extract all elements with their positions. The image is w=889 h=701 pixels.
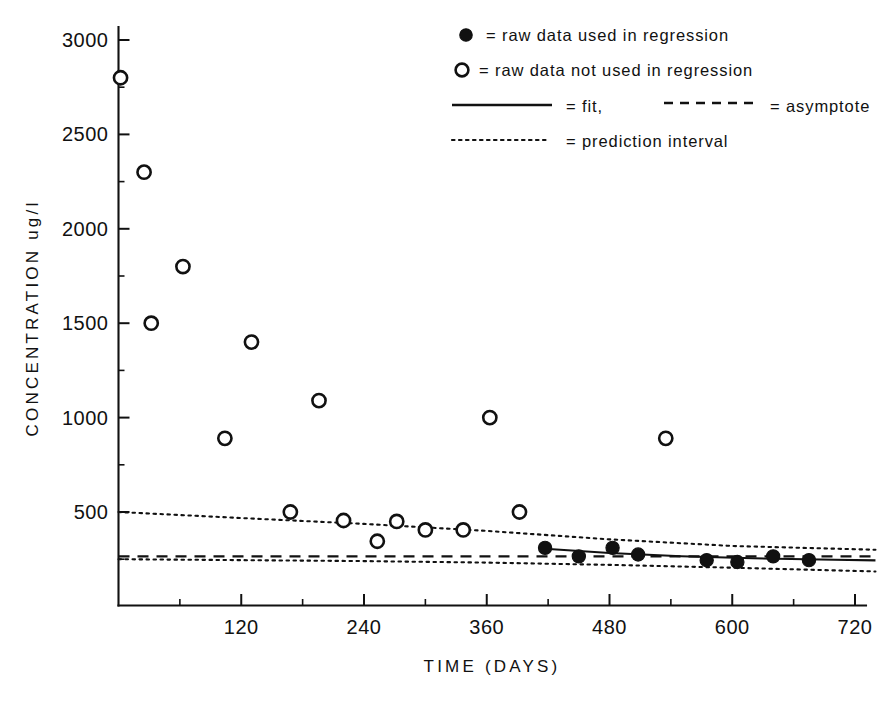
data-point-filled — [632, 548, 645, 561]
legend-filled-circle-icon — [460, 29, 472, 41]
x-tick-label: 480 — [592, 616, 627, 638]
data-point-open — [513, 505, 526, 518]
legend-open-circle-icon — [456, 64, 469, 77]
regression-curves — [119, 512, 876, 571]
data-point-filled — [700, 554, 713, 567]
x-axis-tick-labels: 120240360480600720 — [224, 616, 873, 638]
data-point-filled — [572, 550, 585, 563]
x-tick-label: 240 — [347, 616, 382, 638]
chart-canvas: 50010001500200025003000 1202403604806007… — [0, 0, 889, 701]
y-tick-label: 1000 — [62, 407, 109, 429]
y-tick-label: 1500 — [62, 312, 109, 334]
data-point-open — [312, 394, 325, 407]
chart-legend: = raw data used in regression = raw data… — [452, 26, 870, 150]
y-tick-label: 500 — [74, 501, 109, 523]
data-point-open — [176, 260, 189, 273]
data-point-open — [114, 71, 127, 84]
y-tick-label: 2000 — [62, 218, 109, 240]
x-axis-ticks — [180, 594, 855, 606]
data-point-open — [137, 166, 150, 179]
data-point-filled — [538, 541, 551, 554]
y-tick-label: 3000 — [62, 29, 109, 51]
data-point-open — [284, 505, 297, 518]
x-axis-title: TIME (DAYS) — [424, 657, 561, 676]
data-point-open — [245, 335, 258, 348]
data-point-filled — [767, 550, 780, 563]
data-point-open — [483, 411, 496, 424]
data-point-filled — [802, 554, 815, 567]
data-point-open — [371, 535, 384, 548]
prediction-interval-line — [119, 559, 876, 571]
y-axis-tick-labels: 50010001500200025003000 — [62, 29, 109, 523]
legend-label-prediction: = prediction interval — [566, 132, 728, 150]
data-point-open — [145, 317, 158, 330]
data-point-filled — [731, 555, 744, 568]
data-point-open — [218, 432, 231, 445]
data-point-open — [457, 523, 470, 536]
data-point-open — [390, 515, 403, 528]
y-axis-ticks — [119, 40, 130, 559]
axis-lines — [119, 27, 867, 606]
legend-label-used: = raw data used in regression — [486, 26, 729, 44]
legend-label-not-used: = raw data not used in regression — [479, 61, 753, 79]
data-point-open — [419, 523, 432, 536]
x-tick-label: 720 — [838, 616, 873, 638]
x-tick-label: 360 — [469, 616, 504, 638]
x-tick-label: 120 — [224, 616, 259, 638]
legend-label-fit: = fit, — [566, 97, 603, 115]
y-tick-label: 2500 — [62, 123, 109, 145]
prediction-interval-line — [119, 512, 876, 550]
chart-figure: 50010001500200025003000 1202403604806007… — [0, 0, 889, 701]
legend-label-asymptote: = asymptote — [770, 97, 870, 115]
data-point-filled — [606, 541, 619, 554]
x-tick-label: 600 — [715, 616, 750, 638]
data-point-open — [337, 514, 350, 527]
y-axis-title: CONCENTRATION ug/l — [23, 200, 42, 437]
data-point-open — [659, 432, 672, 445]
